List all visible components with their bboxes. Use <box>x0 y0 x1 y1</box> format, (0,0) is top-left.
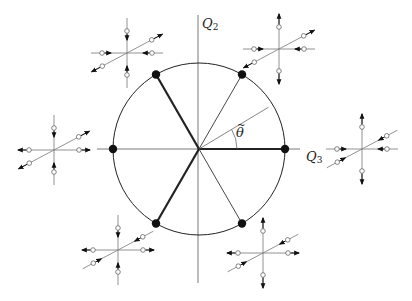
q2-subscript: 2 <box>213 22 219 32</box>
glyph-top-right <box>243 14 315 84</box>
critical-point-dot <box>281 145 289 153</box>
critical-point-dot <box>238 70 246 78</box>
critical-point-dot <box>152 219 160 227</box>
phase-glyphs <box>18 14 398 288</box>
critical-point-dot <box>238 219 246 227</box>
thin-spoke <box>199 149 242 223</box>
glyph-top-left <box>91 18 163 88</box>
angle-reference <box>199 107 268 149</box>
glyph-left <box>18 115 90 185</box>
glyph-bottom-right <box>227 218 299 288</box>
critical-point-dot <box>152 70 160 78</box>
q3-axis-label: Q3 <box>306 150 322 165</box>
critical-point-dot <box>109 145 117 153</box>
q2-letter: Q <box>202 16 213 31</box>
thick-spoke <box>156 75 199 149</box>
thick-spoke <box>156 149 199 223</box>
q3-subscript: 3 <box>317 155 323 165</box>
reference-line <box>199 107 268 149</box>
phase-diagram <box>0 0 412 301</box>
glyph-right <box>326 114 398 184</box>
tilde-accent: ~ <box>237 120 245 130</box>
q3-letter: Q <box>306 149 317 164</box>
glyph-bottom-left <box>82 215 154 285</box>
q2-axis-label: Q2 <box>202 17 218 32</box>
theta-label: ~ θ <box>236 126 244 139</box>
